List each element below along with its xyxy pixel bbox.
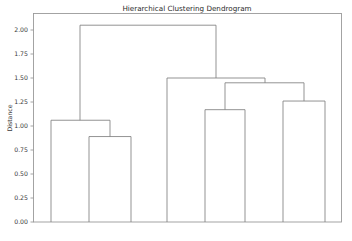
y-axis-label: Distance xyxy=(6,104,13,131)
y-tick-label: 1.00 xyxy=(14,122,28,129)
y-tick-label: 0.50 xyxy=(14,170,28,177)
y-axis-ticks: 0.000.250.500.751.001.251.501.752.00 xyxy=(14,26,33,225)
dendrogram-link xyxy=(80,25,216,120)
y-tick-label: 1.75 xyxy=(14,50,28,57)
dendrogram-figure: Hierarchical Clustering Dendrogram 0.000… xyxy=(0,0,352,241)
page-title: Hierarchical Clustering Dendrogram xyxy=(122,4,251,13)
dendrogram-link xyxy=(205,110,245,222)
dendrogram-link xyxy=(51,120,110,222)
y-tick-label: 0.75 xyxy=(14,146,28,153)
dendrogram-link xyxy=(167,78,265,222)
dendrogram-links xyxy=(51,25,325,222)
y-tick-label: 1.50 xyxy=(14,74,28,81)
dendrogram-canvas: Hierarchical Clustering Dendrogram 0.000… xyxy=(0,0,352,241)
dendrogram-link xyxy=(89,137,131,222)
y-tick-label: 2.00 xyxy=(14,26,28,33)
y-tick-label: 1.25 xyxy=(14,98,28,105)
y-tick-label: 0.25 xyxy=(14,194,28,201)
dendrogram-link xyxy=(283,101,325,222)
y-tick-label: 0.00 xyxy=(14,218,28,225)
dendrogram-link xyxy=(225,83,304,110)
